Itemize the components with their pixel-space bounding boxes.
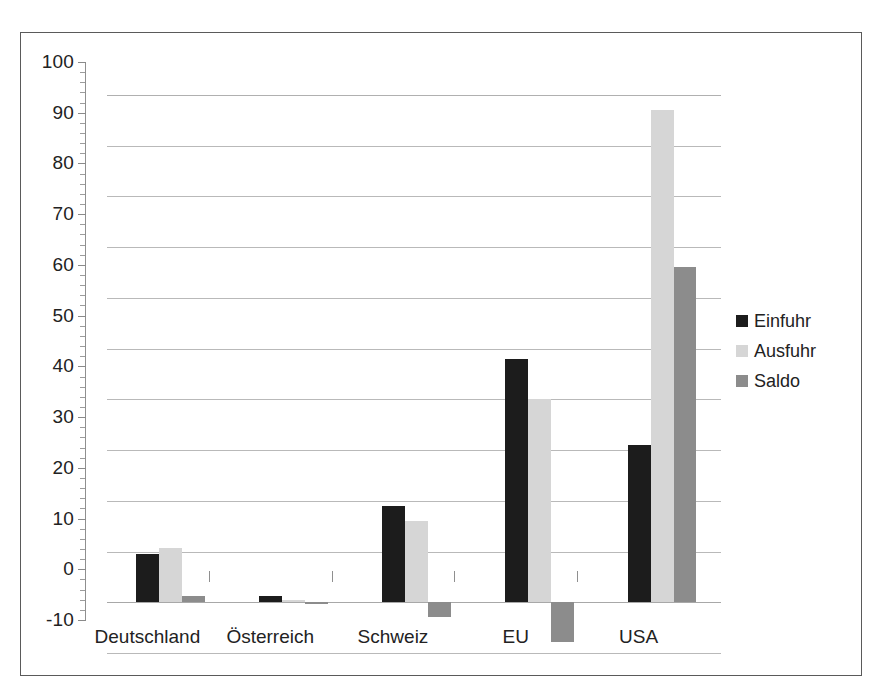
- y-tick-minor: [80, 305, 85, 306]
- y-tick-minor: [80, 539, 85, 540]
- plot-area: [107, 95, 721, 653]
- y-tick-10: [78, 519, 86, 520]
- y-tick-label-30: 30: [18, 407, 74, 426]
- y-tick-minor: [80, 234, 85, 235]
- gridline-0: [107, 602, 721, 603]
- bar-einfuhr-3: [505, 359, 528, 602]
- legend-label-einfuhr: Einfuhr: [754, 311, 811, 331]
- y-tick-minor: [80, 103, 85, 104]
- legend-swatch-saldo: [736, 375, 748, 387]
- bar-einfuhr-0: [136, 554, 159, 602]
- y-axis-tick-labels: -100102030405060708090100: [12, 0, 74, 697]
- bar-ausfuhr-2: [405, 521, 428, 602]
- y-tick-minor: [80, 600, 85, 601]
- y-tick-90: [78, 113, 86, 114]
- bar-einfuhr-4: [628, 445, 651, 602]
- gridline-50: [107, 349, 721, 350]
- y-tick-minor: [80, 407, 85, 408]
- y-axis-line: [85, 62, 86, 620]
- bar-saldo-4: [674, 267, 697, 602]
- y-tick-minor: [80, 610, 85, 611]
- gridline--10: [107, 653, 721, 654]
- y-tick-minor: [80, 427, 85, 428]
- legend-item-einfuhr[interactable]: Einfuhr: [736, 306, 856, 336]
- x-category-label-3: EU: [454, 626, 577, 648]
- y-tick-minor: [80, 356, 85, 357]
- y-tick-minor: [80, 82, 85, 83]
- gridline-80: [107, 196, 721, 197]
- y-tick-minor: [80, 72, 85, 73]
- y-tick-minor: [80, 285, 85, 286]
- y-tick-minor: [80, 153, 85, 154]
- chart-figure: -100102030405060708090100 Einfuhr Ausfuh…: [0, 0, 884, 697]
- y-tick-minor: [80, 204, 85, 205]
- y-tick-label-90: 90: [18, 103, 74, 122]
- y-tick-label-10: 10: [18, 509, 74, 528]
- x-tick-4: [577, 571, 578, 582]
- chart-legend: Einfuhr Ausfuhr Saldo: [736, 306, 856, 396]
- y-tick-minor: [80, 194, 85, 195]
- y-tick-minor: [80, 478, 85, 479]
- y-tick-minor: [80, 448, 85, 449]
- gridline-100: [107, 95, 721, 96]
- bar-saldo-1: [305, 602, 328, 604]
- y-tick-label-100: 100: [18, 52, 74, 71]
- y-tick-50: [78, 316, 86, 317]
- y-tick-minor: [80, 123, 85, 124]
- y-tick-30: [78, 417, 86, 418]
- x-category-label-2: Schweiz: [332, 626, 455, 648]
- y-tick-label-50: 50: [18, 306, 74, 325]
- legend-item-ausfuhr[interactable]: Ausfuhr: [736, 336, 856, 366]
- bar-einfuhr-1: [259, 596, 282, 602]
- legend-item-saldo[interactable]: Saldo: [736, 366, 856, 396]
- y-tick-minor: [80, 508, 85, 509]
- bar-ausfuhr-0: [159, 548, 182, 602]
- y-tick-minor: [80, 326, 85, 327]
- y-tick-minor: [80, 224, 85, 225]
- y-tick-minor: [80, 458, 85, 459]
- y-tick-minor: [80, 295, 85, 296]
- y-tick-0: [78, 569, 86, 570]
- legend-swatch-ausfuhr: [736, 345, 748, 357]
- y-tick-minor: [80, 377, 85, 378]
- y-tick-minor: [80, 255, 85, 256]
- y-tick-minor: [80, 397, 85, 398]
- bar-ausfuhr-4: [651, 110, 674, 602]
- legend-swatch-einfuhr: [736, 315, 748, 327]
- x-tick-2: [332, 571, 333, 582]
- y-tick-minor: [80, 437, 85, 438]
- y-tick-minor: [80, 133, 85, 134]
- x-tick-3: [454, 571, 455, 582]
- gridline-40: [107, 399, 721, 400]
- bar-einfuhr-2: [382, 506, 405, 602]
- y-tick-minor: [80, 549, 85, 550]
- y-tick-80: [78, 163, 86, 164]
- y-tick-label-60: 60: [18, 255, 74, 274]
- bar-saldo-2: [428, 602, 451, 617]
- legend-label-saldo: Saldo: [754, 371, 800, 391]
- bar-ausfuhr-3: [528, 399, 551, 602]
- y-tick-label--10: -10: [18, 610, 74, 629]
- legend-label-ausfuhr: Ausfuhr: [754, 341, 816, 361]
- x-category-label-0: Deutschland: [86, 626, 209, 648]
- y-tick-minor: [80, 529, 85, 530]
- bar-saldo-0: [182, 596, 205, 602]
- gridline-90: [107, 146, 721, 147]
- y-tick-minor: [80, 488, 85, 489]
- x-tick-1: [209, 571, 210, 582]
- y-tick-label-40: 40: [18, 356, 74, 375]
- y-tick-100: [78, 62, 86, 63]
- y-tick-40: [78, 366, 86, 367]
- y-tick-minor: [80, 579, 85, 580]
- y-tick-minor: [80, 245, 85, 246]
- y-tick-minor: [80, 387, 85, 388]
- y-tick-minor: [80, 559, 85, 560]
- y-tick-minor: [80, 336, 85, 337]
- gridline-60: [107, 298, 721, 299]
- y-tick-70: [78, 214, 86, 215]
- y-tick-minor: [80, 346, 85, 347]
- y-tick-minor: [80, 174, 85, 175]
- gridline-70: [107, 247, 721, 248]
- y-tick-20: [78, 468, 86, 469]
- y-tick-label-70: 70: [18, 204, 74, 223]
